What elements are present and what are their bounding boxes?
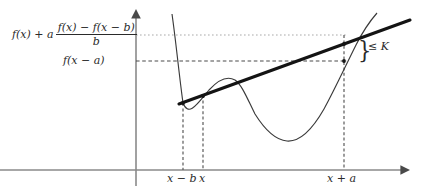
chord-line: [179, 20, 410, 104]
function-curve: [172, 13, 377, 141]
fraction-numerator: f(x) − f(x − b): [56, 22, 137, 34]
point-x-minus-b: [181, 101, 185, 105]
tick-label-x-plus-a: x + a: [327, 172, 356, 185]
upper-label-fraction: f(x) − f(x − b) b: [56, 22, 137, 47]
math-figure: f(x) + a f(x) − f(x − b) b f(x − a) } ≤ …: [0, 0, 421, 191]
point-x: [201, 94, 205, 98]
upper-label-lead: f(x) + a: [12, 29, 54, 40]
tick-label-x: x: [199, 172, 205, 185]
upper-level-label: f(x) + a f(x) − f(x − b) b: [12, 22, 137, 47]
k-bound-label: ≤ K: [368, 41, 389, 52]
point-chord-at-x-plus-a: [342, 42, 346, 46]
point-curve-at-x-plus-a: [342, 59, 346, 63]
fraction-denominator: b: [91, 35, 102, 47]
lower-level-label: f(x − a): [63, 55, 105, 66]
tick-label-x-minus-b: x − b: [167, 172, 196, 185]
